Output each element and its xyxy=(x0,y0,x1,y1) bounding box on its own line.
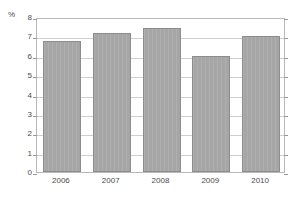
bar-chart-figure: % 876543210 20062007200820092010 xyxy=(0,0,299,198)
x-axis-tick-labels: 20062007200820092010 xyxy=(36,176,285,190)
y-axis-tick-label: 1 xyxy=(6,150,32,158)
y-axis-tick-mark-right xyxy=(284,19,288,20)
x-axis-tick-label: 2010 xyxy=(235,176,285,185)
y-axis-tick-labels: 876543210 xyxy=(2,18,32,173)
y-axis-tick-mark-right xyxy=(284,38,288,39)
y-axis-tick-mark-right xyxy=(284,116,288,117)
y-axis-tick-label: 2 xyxy=(6,130,32,138)
bars-group xyxy=(37,19,284,172)
y-axis-tick-label: 7 xyxy=(6,33,32,41)
y-axis-tick-mark-right xyxy=(284,58,288,59)
y-axis-tick-mark-right xyxy=(284,135,288,136)
x-axis-tick-label: 2006 xyxy=(36,176,86,185)
x-axis-tick-label: 2007 xyxy=(86,176,136,185)
y-axis-tick-label: 0 xyxy=(6,169,32,177)
y-axis-tick-label: 8 xyxy=(6,14,32,22)
y-axis-tick-label: 3 xyxy=(6,111,32,119)
y-axis-tick-mark-right xyxy=(284,174,288,175)
bar xyxy=(242,36,280,172)
bar xyxy=(143,28,181,172)
x-axis-tick-label: 2009 xyxy=(185,176,235,185)
bar xyxy=(93,33,131,172)
bar xyxy=(43,41,81,172)
clipped-title-text xyxy=(8,0,208,4)
y-axis-tick-label: 5 xyxy=(6,72,32,80)
x-axis-tick-label: 2008 xyxy=(136,176,186,185)
y-axis-tick-label: 6 xyxy=(6,53,32,61)
y-axis-tick-mark-right xyxy=(284,155,288,156)
bar xyxy=(192,56,230,172)
y-axis-tick-label: 4 xyxy=(6,92,32,100)
plot-area xyxy=(36,18,285,173)
y-axis-tick-mark-left xyxy=(33,174,37,175)
y-axis-tick-mark-right xyxy=(284,77,288,78)
y-axis-tick-mark-right xyxy=(284,97,288,98)
